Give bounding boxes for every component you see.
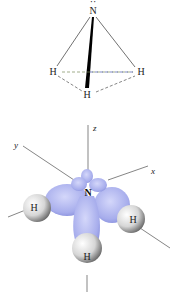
tetrahedral-structure: ·· N H H H xyxy=(49,0,144,100)
orbital-h-left-label: H xyxy=(30,202,37,213)
dashed-edge-front-right xyxy=(96,76,135,92)
atom-n-label: N xyxy=(89,5,96,16)
x-axis xyxy=(108,166,148,180)
bond-n-h-right xyxy=(96,17,135,67)
orbital-diagram: z y x N H H H xyxy=(8,123,170,292)
y-axis-label: y xyxy=(13,140,18,150)
z-axis-label: z xyxy=(92,123,97,133)
dashed-edge-left-front xyxy=(58,76,82,91)
bond-line-right xyxy=(140,228,170,248)
wedge-bond-n-h-front xyxy=(85,17,94,88)
ammonia-figure: ·· N H H H z y x N H H H xyxy=(0,0,175,292)
atom-h-left-label: H xyxy=(49,66,56,77)
y-axis xyxy=(23,146,74,180)
bond-n-h-left xyxy=(57,17,90,66)
orbital-lobe-small-right xyxy=(89,178,107,192)
x-axis-label: x xyxy=(150,166,155,176)
orbital-h-bottom-label: H xyxy=(83,251,90,262)
atom-h-front-label: H xyxy=(83,89,90,100)
orbital-h-right-label: H xyxy=(129,214,136,225)
atom-h-right-label: H xyxy=(137,66,144,77)
orbital-atom-n-label: N xyxy=(84,187,92,198)
